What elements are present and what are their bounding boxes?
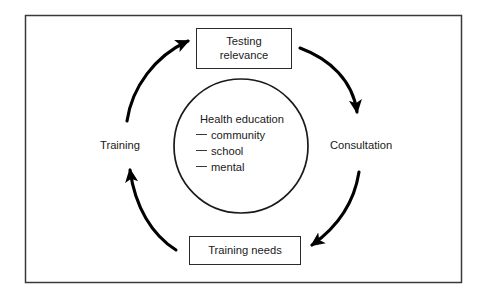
em-dash-icon <box>196 134 207 135</box>
center-circle-list: community school mental <box>176 128 308 176</box>
list-item-label: community <box>211 129 265 141</box>
edge-label-consultation: Consultation <box>330 139 392 151</box>
list-item-label: school <box>211 145 243 157</box>
cycle-diagram: Testing relevance Training needs Trainin… <box>0 0 487 301</box>
list-item: mental <box>196 160 308 176</box>
edge-label-training: Training <box>100 139 140 151</box>
center-circle-content: Health education community school mental <box>176 112 308 176</box>
list-item: community <box>196 128 308 144</box>
em-dash-icon <box>196 150 207 151</box>
list-item: school <box>196 144 308 160</box>
em-dash-icon <box>196 166 207 167</box>
center-circle-heading: Health education <box>176 112 308 128</box>
node-testing-relevance: Testing relevance <box>196 28 292 69</box>
list-item-label: mental <box>211 161 245 173</box>
node-training-needs: Training needs <box>189 236 301 265</box>
